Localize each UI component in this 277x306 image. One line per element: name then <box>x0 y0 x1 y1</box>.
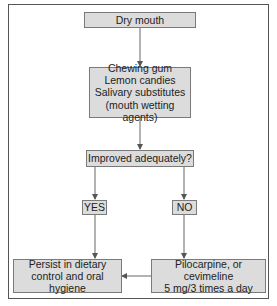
node-dry-mouth: Dry mouth <box>84 12 196 28</box>
node-first-line-measures: Chewing gum Lemon candies Salivary subst… <box>89 67 191 118</box>
node-dry-mouth-label: Dry mouth <box>116 14 164 26</box>
node-decision-label: Improved adequately? <box>88 152 192 164</box>
first-line-item: (mouth wetting agents) <box>90 99 190 123</box>
persist-line: Persist in dietary <box>29 258 107 270</box>
medication-line: 5 mg/3 times a day <box>164 282 253 294</box>
node-decision-improved: Improved adequately? <box>86 150 194 167</box>
persist-line: control and oral hygiene <box>14 270 121 294</box>
node-persist-hygiene: Persist in dietary control and oral hygi… <box>13 259 122 293</box>
node-yes-label: YES <box>84 201 105 213</box>
first-line-item: Salivary substitutes <box>95 86 185 98</box>
medication-line: Pilocarpine, or cevimeline <box>152 258 265 282</box>
node-yes: YES <box>82 200 107 215</box>
node-medication: Pilocarpine, or cevimeline 5 mg/3 times … <box>151 259 266 293</box>
node-no: NO <box>172 200 197 215</box>
first-line-item: Chewing gum <box>108 62 172 74</box>
node-no-label: NO <box>177 201 193 213</box>
first-line-item: Lemon candies <box>104 74 175 86</box>
